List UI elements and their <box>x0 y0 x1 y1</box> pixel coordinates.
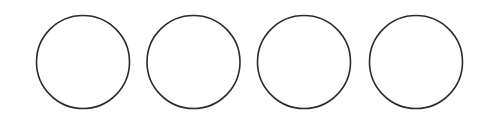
diagram-canvas <box>0 0 482 127</box>
circles-diagram <box>0 0 482 127</box>
circle-2 <box>147 16 240 109</box>
circle-4 <box>370 16 463 109</box>
circle-1 <box>37 16 130 109</box>
circle-group <box>37 16 463 109</box>
circle-3 <box>258 16 351 109</box>
